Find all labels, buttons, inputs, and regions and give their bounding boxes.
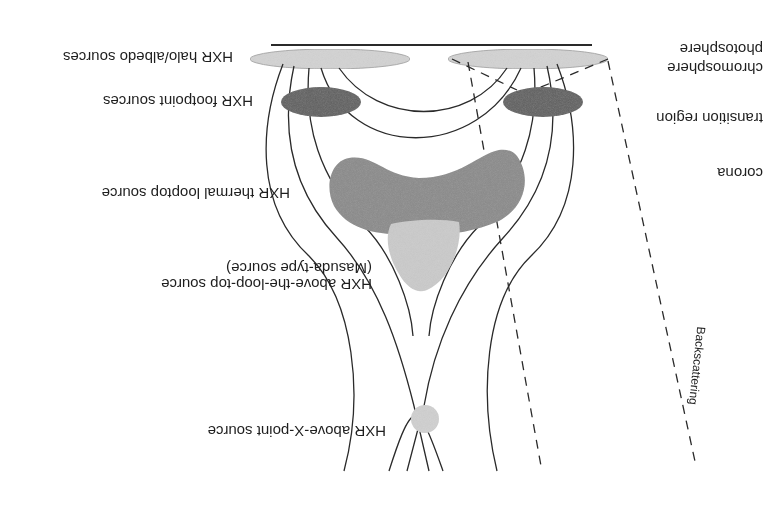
label-photosphere: photosphere [680,41,763,58]
backscatter-line-inner [468,62,541,466]
label-footpoint: HXR footpoint sources [103,93,253,110]
footpoint-source-right [281,87,361,117]
label-above-x-point: HXR above-X-point source [208,423,386,440]
halo-albedo-source-left [448,49,608,69]
diagram-stage: photosphere chromosphere transition regi… [0,0,779,506]
label-backscattering: Backscattering [686,326,708,406]
label-chromosphere: chromosphere [667,60,763,77]
label-corona: corona [716,165,763,182]
solar-flare-hxr-sources-diagram: photosphere chromosphere transition regi… [0,0,779,506]
label-thermal-looptop: HXR thermal looptop source [102,185,290,202]
flare-diagram-rotated: photosphere chromosphere transition regi… [0,0,779,506]
label-transition-region: transition region [656,110,763,127]
label-above-loop-top-1: HXR above-the-loop-top source [161,276,372,293]
label-above-loop-top-2: (Masuda-type source) [226,260,372,277]
footpoint-source-left [503,87,583,117]
above-x-point-source [411,405,439,433]
label-halo-albedo: HXR halo/albedo sources [63,49,233,66]
field-line-inner-1 [339,68,507,112]
halo-albedo-source-right [250,49,410,69]
